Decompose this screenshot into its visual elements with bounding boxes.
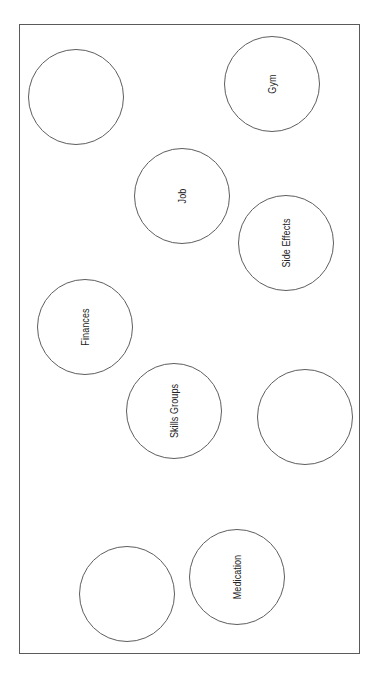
bubble-empty-2: [257, 369, 353, 465]
bubble-label: Finances: [79, 308, 91, 345]
bubble-medication: Medication: [189, 529, 285, 625]
bubble-skills-groups: Skills Groups: [126, 363, 222, 459]
bubble-label: Medication: [231, 555, 243, 599]
bubble-finances: Finances: [37, 279, 133, 375]
bubble-job: Job: [134, 148, 230, 244]
bubble-gym: Gym: [224, 36, 320, 132]
bubble-side-effects: Side Effects: [238, 195, 334, 291]
bubble-label: Gym: [266, 74, 278, 93]
bubble-label: Skills Groups: [168, 384, 180, 438]
bubble-label: Side Effects: [280, 219, 292, 268]
diagram-canvas: Gym Job Side Effects Finances Skills Gro…: [0, 0, 380, 689]
bubble-label: Job: [176, 189, 188, 204]
bubble-empty-1: [28, 49, 124, 145]
bubble-empty-3: [79, 546, 175, 642]
